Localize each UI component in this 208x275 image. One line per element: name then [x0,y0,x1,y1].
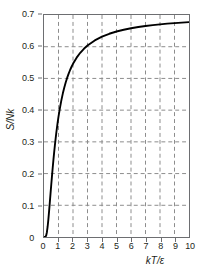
x-tick-mark [161,238,162,242]
y-tick-mark [38,206,42,207]
x-tick-label: 8 [158,241,163,251]
x-tick-mark [117,238,118,242]
x-tick-label: 2 [70,241,75,251]
y-tick-mark [38,78,42,79]
x-tick-label: 6 [129,241,134,251]
x-tick-label: 7 [143,241,148,251]
x-tick-label: 0 [41,241,46,251]
y-tick-label: 0.4 [22,106,34,115]
y-tick-mark [38,174,42,175]
x-tick-mark [131,238,132,242]
y-tick-mark [38,110,42,111]
y-tick-label: 0.5 [22,74,34,83]
entropy-chart-figure: 00.10.20.30.40.50.60.7 012345678910 S/Nk… [0,0,208,275]
x-tick-mark [146,238,147,242]
y-tick-mark [38,142,42,143]
y-tick-label: 0.6 [22,42,34,51]
x-axis-tick-labels: 012345678910 [43,241,190,255]
y-tick-label: 0.7 [22,10,34,19]
y-tick-label: 0.1 [22,202,34,211]
x-tick-label: 9 [173,241,178,251]
x-tick-label: 3 [85,241,90,251]
data-curve [44,15,189,237]
x-tick-mark [102,238,103,242]
x-tick-label: 4 [99,241,104,251]
y-tick-mark [38,14,42,15]
x-tick-mark [175,238,176,242]
y-tick-label: 0.3 [22,138,34,147]
x-tick-mark [87,238,88,242]
x-axis-title: kT/ε [120,255,190,266]
y-tick-mark [38,46,42,47]
y-tick-label: 0.2 [22,170,34,179]
y-axis-title: S/Nk [5,95,16,145]
x-tick-mark [58,238,59,242]
y-tick-label: 0 [29,234,34,243]
x-tick-label: 1 [55,241,60,251]
x-tick-label: 5 [114,241,119,251]
plot-area [43,14,190,238]
x-tick-label: 10 [185,241,195,251]
x-tick-mark [72,238,73,242]
